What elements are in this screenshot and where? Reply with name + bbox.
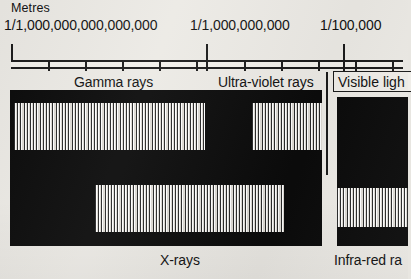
spectrum-panel-left — [10, 90, 322, 246]
spectrum-bar-x-rays — [95, 185, 284, 232]
scale-tick-label-2: 1/100,000 — [320, 17, 381, 33]
ruler-minor-tick — [85, 62, 87, 71]
scale-tick-label-0: 1/1,000,000,000,000,000 — [4, 17, 157, 33]
scale-unit-label: Metres — [11, 1, 50, 15]
visible-light-leader-line — [326, 72, 328, 175]
spectrum-bar-gamma-rays — [14, 103, 205, 150]
ruler-minor-tick — [281, 62, 283, 71]
ruler-minor-tick — [392, 62, 394, 71]
ruler-minor-tick — [196, 62, 198, 71]
band-label-visible-light: Visible ligh — [338, 74, 405, 90]
spectrum-panel-right — [337, 97, 408, 246]
ruler-minor-tick — [318, 62, 320, 71]
scale-major-tick-riser-2 — [343, 44, 345, 60]
band-label-x-rays: X-rays — [160, 252, 200, 268]
spectrum-bar-ultraviolet-rays — [252, 103, 322, 150]
ruler-major-tick — [206, 62, 208, 71]
ruler-minor-tick — [355, 62, 357, 71]
band-label-infra-red-rays: Infra-red ra — [334, 252, 402, 268]
ruler-minor-tick — [244, 62, 246, 71]
ruler-minor-tick — [122, 62, 124, 71]
spectrum-bar-infra-red-rays — [337, 188, 408, 227]
wavelength-ruler-bar — [11, 60, 403, 69]
ruler-major-tick — [343, 62, 345, 71]
scale-major-tick-riser-1 — [206, 44, 208, 60]
ruler-minor-tick — [48, 62, 50, 71]
band-label-ultraviolet-rays: Ultra-violet rays — [218, 74, 314, 90]
band-label-gamma-rays: Gamma rays — [74, 74, 153, 90]
ruler-minor-tick — [159, 62, 161, 71]
scale-tick-label-1: 1/1,000,000,000 — [190, 17, 290, 33]
scale-major-tick-riser-0 — [11, 44, 13, 60]
